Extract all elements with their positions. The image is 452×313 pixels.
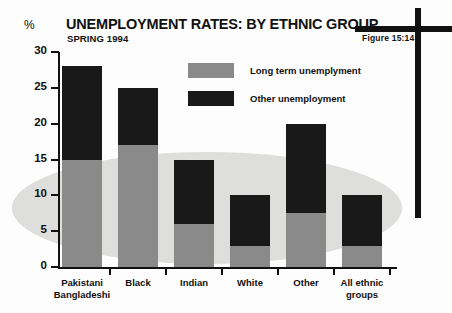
figure-container: Figure 15:14 % UNEMPLOYMENT RATES: BY ET…: [0, 0, 452, 313]
x-axis-label-5: Other: [274, 277, 338, 289]
bar-segment-long-term-unemployment: [62, 160, 102, 268]
bar-other: [286, 124, 326, 267]
x-axis-tick: [277, 269, 279, 275]
bar-segment-other-unemployment: [342, 195, 382, 245]
x-axis-tick: [221, 269, 223, 275]
x-axis-label-line1: Black: [106, 277, 170, 289]
plot-area: 051015202530 PakistaniBangladeshiBlackIn…: [0, 0, 452, 313]
bar-segment-other-unemployment: [286, 124, 326, 214]
x-axis-label-4: White: [218, 277, 282, 289]
bar-segment-other-unemployment: [174, 160, 214, 225]
bar-segment-long-term-unemployment: [286, 213, 326, 267]
x-axis-tick: [333, 269, 335, 275]
bar-segment-other-unemployment: [118, 88, 158, 145]
bar-segment-long-term-unemployment: [342, 246, 382, 268]
x-axis-label-line1: Other: [274, 277, 338, 289]
bar-segment-long-term-unemployment: [174, 224, 214, 267]
bar-segment-long-term-unemployment: [118, 145, 158, 267]
x-axis-label-3: Indian: [162, 277, 226, 289]
x-axis-label-line1: Pakistani: [50, 277, 114, 289]
x-axis-tick: [165, 269, 167, 275]
y-axis-line: [58, 52, 60, 269]
x-axis-label-line2: groups: [330, 289, 394, 301]
x-axis-tick: [389, 269, 391, 275]
bar-pakistani-bangladeshi: [62, 66, 102, 267]
bar-segment-other-unemployment: [230, 195, 270, 245]
x-axis-label-1: PakistaniBangladeshi: [50, 277, 114, 301]
bar-black: [118, 88, 158, 267]
bar-segment-long-term-unemployment: [230, 246, 270, 268]
x-axis-label-line1: Indian: [162, 277, 226, 289]
bar-all-ethnic-groups: [342, 195, 382, 267]
x-axis-label-line2: Bangladeshi: [50, 289, 114, 301]
bar-segment-other-unemployment: [62, 66, 102, 159]
x-axis-label-6: All ethnicgroups: [330, 277, 394, 301]
x-axis-label-line1: All ethnic: [330, 277, 394, 289]
x-axis-tick: [109, 269, 111, 275]
x-axis-label-2: Black: [106, 277, 170, 289]
x-axis-label-line1: White: [218, 277, 282, 289]
bar-indian: [174, 160, 214, 268]
bar-white: [230, 195, 270, 267]
bar-series-layer: [0, 0, 452, 269]
